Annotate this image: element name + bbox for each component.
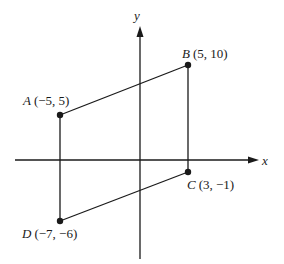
point-d-coords: (−7, −6) (34, 226, 77, 241)
point-d-dot (57, 218, 63, 224)
point-b-label: B(5, 10) (182, 46, 228, 61)
quadrilateral (60, 65, 188, 221)
point-a-dot (57, 112, 63, 118)
point-a-label: A(−5, 5) (22, 93, 69, 108)
point-b-name: B (182, 46, 190, 61)
y-axis-arrow-icon (137, 26, 144, 37)
point-a-name: A (22, 93, 31, 108)
y-axis (137, 26, 144, 259)
point-d-label: D(−7, −6) (21, 226, 77, 241)
x-axis (15, 157, 259, 164)
point-c-label: C(3, −1) (187, 177, 234, 192)
x-axis-label: x (261, 153, 268, 168)
point-c-name: C (187, 177, 196, 192)
y-axis-label: y (132, 8, 140, 23)
point-c-dot (185, 169, 191, 175)
diagram-svg: y x A(−5, 5) B(5, 10) C(3, −1) D(−7, −6) (0, 0, 284, 264)
diagram-canvas: y x A(−5, 5) B(5, 10) C(3, −1) D(−7, −6) (0, 0, 284, 264)
point-b-dot (185, 62, 191, 68)
segment-ab (60, 65, 188, 115)
segment-cd (60, 172, 188, 221)
point-b-coords: (5, 10) (193, 46, 228, 61)
point-d-name: D (21, 226, 32, 241)
x-axis-arrow-icon (248, 157, 259, 164)
point-a-coords: (−5, 5) (34, 93, 70, 108)
point-c-coords: (3, −1) (199, 177, 235, 192)
